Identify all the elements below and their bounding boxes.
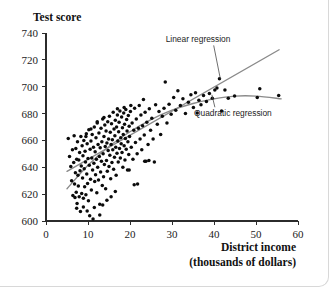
data-point <box>114 145 118 149</box>
y-tick-label: 620 <box>22 188 39 200</box>
data-point <box>98 155 102 159</box>
data-point <box>127 168 131 172</box>
data-point <box>80 144 84 148</box>
data-point <box>151 137 155 141</box>
data-point <box>277 94 281 98</box>
y-tick-label: 680 <box>22 108 39 120</box>
data-point <box>122 144 126 148</box>
data-point <box>137 104 141 108</box>
data-point <box>79 135 83 139</box>
y-tick-label: 740 <box>22 27 39 39</box>
y-tick-label: 640 <box>22 161 39 173</box>
data-point <box>89 127 93 131</box>
data-point <box>72 161 76 165</box>
data-point <box>121 126 125 130</box>
data-point <box>111 148 115 152</box>
data-point <box>110 122 114 126</box>
data-point <box>98 202 102 206</box>
x-tick-label: 10 <box>83 228 95 240</box>
data-point <box>93 150 97 154</box>
quadratic-regression-annotation: Quadratic regression <box>194 108 272 118</box>
data-point <box>94 136 98 140</box>
data-points-group <box>67 77 281 221</box>
quadratic-annotation-leader <box>212 95 215 107</box>
data-point <box>122 111 126 115</box>
data-point <box>114 119 118 123</box>
data-point <box>199 103 203 107</box>
data-point <box>135 117 139 121</box>
data-point <box>106 149 110 153</box>
data-point <box>100 159 104 163</box>
data-point <box>179 104 183 108</box>
data-point <box>86 157 90 161</box>
x-tick-label: 30 <box>167 228 179 240</box>
data-point <box>83 149 87 153</box>
data-point <box>153 160 157 164</box>
data-point <box>104 187 108 191</box>
data-point <box>91 217 95 221</box>
data-point <box>184 112 188 116</box>
data-point <box>77 184 81 188</box>
data-point <box>80 192 84 196</box>
data-point <box>122 106 126 110</box>
data-point <box>161 115 165 119</box>
data-point <box>93 180 97 184</box>
data-point <box>258 87 262 91</box>
data-point <box>76 140 80 144</box>
data-point <box>67 137 71 141</box>
data-point <box>124 147 128 151</box>
data-point <box>115 125 119 129</box>
data-point <box>159 133 163 137</box>
data-point <box>82 196 86 200</box>
data-point <box>117 121 121 125</box>
data-point <box>75 206 79 210</box>
data-point <box>104 129 108 133</box>
data-point <box>98 146 102 150</box>
data-point <box>114 190 118 194</box>
data-point <box>90 188 94 192</box>
data-point <box>84 160 88 164</box>
data-point <box>143 159 147 163</box>
data-point <box>76 174 80 178</box>
data-point <box>131 157 135 161</box>
data-point <box>113 155 117 159</box>
data-point <box>82 167 86 171</box>
data-point <box>100 140 104 144</box>
data-point <box>218 77 222 81</box>
data-point <box>93 125 97 129</box>
data-point <box>120 115 124 119</box>
data-point <box>95 157 99 161</box>
data-point <box>143 110 147 114</box>
data-point <box>146 143 150 147</box>
data-point <box>71 148 75 152</box>
data-point <box>80 164 84 168</box>
data-point <box>88 214 92 218</box>
data-point <box>119 156 123 160</box>
y-axis-title: Test score <box>33 11 81 23</box>
data-point <box>74 147 78 151</box>
data-point <box>119 136 123 140</box>
data-point <box>101 203 105 207</box>
data-point <box>142 98 146 102</box>
data-point <box>132 183 136 187</box>
y-tick-label: 660 <box>22 134 39 146</box>
data-point <box>129 104 133 108</box>
data-point <box>109 131 113 135</box>
data-point <box>85 172 89 176</box>
data-point <box>112 168 116 172</box>
data-point <box>202 94 206 98</box>
data-point <box>97 178 101 182</box>
data-point <box>233 94 237 98</box>
data-point <box>79 210 83 214</box>
data-point <box>137 127 141 131</box>
data-point <box>132 129 136 133</box>
x-axis-title-line1: District income <box>221 241 296 253</box>
data-point <box>147 159 151 163</box>
data-point <box>138 137 142 141</box>
data-point <box>74 190 78 194</box>
data-point <box>133 106 137 110</box>
data-point <box>89 178 93 182</box>
data-point <box>143 133 147 137</box>
data-point <box>70 179 74 183</box>
data-point <box>84 193 88 197</box>
